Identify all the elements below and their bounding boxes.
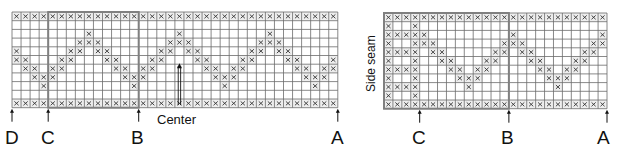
side-seam-label: Side seam	[364, 35, 378, 92]
marker-label-c-right: C	[412, 128, 426, 147]
marker-label-d: D	[5, 128, 19, 147]
marker-label-c-left: C	[41, 128, 55, 147]
marker-label-a-right: A	[597, 128, 610, 147]
center-label: Center	[157, 113, 196, 126]
marker-label-b-left: B	[131, 128, 144, 147]
left-knitting-chart	[12, 12, 340, 148]
marker-label-a-left: A	[331, 128, 344, 147]
marker-label-b-right: B	[501, 128, 514, 147]
